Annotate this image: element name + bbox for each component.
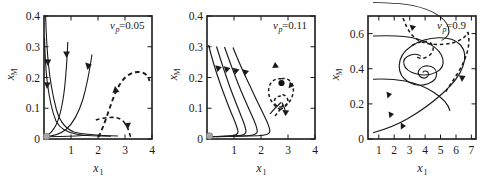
y-tick-label-1: 0.2 (350, 98, 365, 110)
x-tick-label-1: 1 (231, 144, 237, 156)
x-axis-title-sub: 1 (263, 168, 267, 177)
plot-frame (207, 16, 315, 139)
y-tick-label-4: 0.4 (26, 10, 41, 22)
panel-3-svg: 0 0.2 0.4 0.6 1 2 3 4 5 6 7 x M x 1 v p … (326, 0, 490, 187)
y-tick-label-1: 0.1 (189, 102, 204, 114)
x-tick-label-6: 6 (453, 144, 459, 156)
x-tick-label-1: 1 (68, 144, 74, 156)
x-tick-label-2: 2 (391, 144, 397, 156)
y-tick-label-0: 0 (34, 133, 40, 145)
stable-node-marker (43, 133, 50, 140)
y-tick-label-2: 0.4 (350, 63, 365, 75)
y-tick-label-2: 0.2 (26, 72, 41, 84)
stable-node-marker (206, 133, 213, 140)
x-tick-label-5: 5 (438, 144, 444, 156)
y-axis-title-sub: M (335, 68, 344, 75)
panel-vp-0-05: 0 0.1 0.2 0.3 0.4 1 2 3 4 x M x 1 v p =0… (0, 0, 163, 187)
param-symbol: v (273, 19, 278, 31)
param-symbol: v (110, 19, 115, 31)
x-axis-title-main: x (92, 161, 99, 175)
x-tick-label-2: 2 (95, 144, 101, 156)
panel-1-svg: 0 0.1 0.2 0.3 0.4 1 2 3 4 x M x 1 v p =0… (0, 0, 163, 187)
x-tick-label-2: 2 (258, 144, 264, 156)
param-value: =0.11 (282, 19, 307, 31)
x-tick-label-7: 7 (469, 144, 475, 156)
y-tick-label-3: 0.3 (189, 41, 204, 53)
x-tick-label-3: 3 (407, 144, 413, 156)
x-tick-label-4: 4 (149, 144, 155, 156)
panel-vp-0-11: 0 0.1 0.2 0.3 0.4 1 2 3 4 x M x 1 v p =0… (163, 0, 326, 187)
y-axis-title: x M (328, 68, 344, 81)
x-tick-label-3: 3 (285, 144, 291, 156)
plot-frame (44, 16, 152, 139)
y-axis-title-sub: M (173, 68, 182, 75)
phase-portrait-figure: 0 0.1 0.2 0.3 0.4 1 2 3 4 x M x 1 v p =0… (0, 0, 490, 187)
x-axis-title-sub: 1 (100, 168, 104, 177)
unstable-focus-marker (278, 80, 284, 86)
x-tick-label-3: 3 (122, 144, 128, 156)
param-value: =0.05 (119, 19, 145, 31)
x-axis-title-main: x (255, 161, 262, 175)
y-tick-label-3: 0.6 (350, 28, 365, 40)
y-tick-label-1: 0.1 (26, 102, 41, 114)
y-axis-title: x M (3, 68, 19, 81)
y-tick-label-3: 0.3 (26, 41, 41, 53)
x-axis-title-main: x (416, 161, 423, 175)
y-axis-title: x M (166, 68, 182, 81)
x-tick-label-4: 4 (422, 144, 428, 156)
x-axis-title-sub: 1 (424, 168, 428, 177)
x-tick-label-1: 1 (376, 144, 382, 156)
y-tick-label-4: 0.4 (189, 10, 204, 22)
x-tick-label-4: 4 (312, 144, 318, 156)
y-tick-label-0: 0 (358, 133, 364, 145)
panel-vp-0-9: 0 0.2 0.4 0.6 1 2 3 4 5 6 7 x M x 1 v p … (326, 0, 490, 187)
param-symbol: v (437, 19, 442, 31)
panel-2-svg: 0 0.1 0.2 0.3 0.4 1 2 3 4 x M x 1 v p =0… (163, 0, 326, 187)
y-tick-label-2: 0.2 (189, 72, 204, 84)
y-tick-label-0: 0 (197, 133, 203, 145)
y-axis-title-sub: M (10, 68, 19, 75)
